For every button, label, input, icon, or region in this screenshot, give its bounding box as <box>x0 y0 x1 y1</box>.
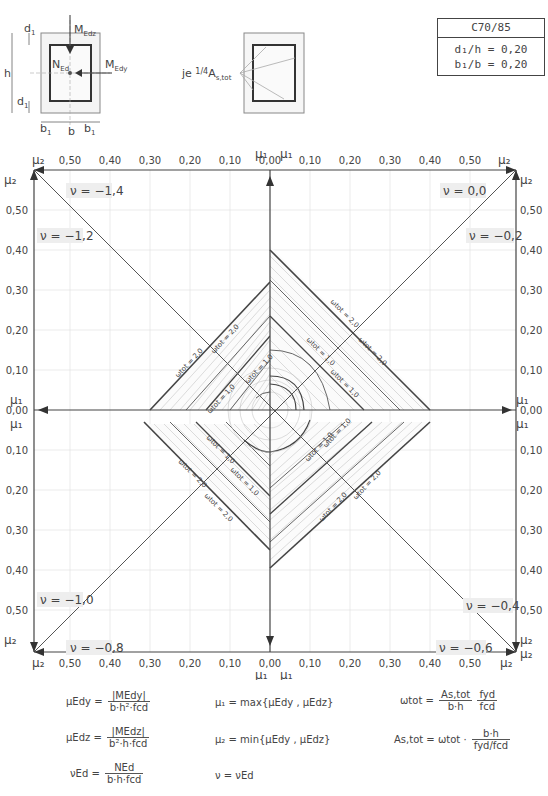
svg-text:0,30: 0,30 <box>520 525 542 536</box>
svg-text:μ₂: μ₂ <box>500 656 513 670</box>
svg-text:μ₁: μ₁ <box>516 393 529 407</box>
nu-label-minus-0-8: ν = −0,8 <box>70 641 124 655</box>
svg-text:0,30: 0,30 <box>139 155 161 166</box>
svg-text:μ₁: μ₁ <box>280 147 293 161</box>
formula-nu-ed: νEd = NEdb·h·fcd <box>70 762 143 785</box>
nu-diagonals <box>34 170 516 652</box>
as-tot-quarter-label: je 1/4As,tot <box>181 67 232 82</box>
nu-label-minus-1-2: ν = −1,2 <box>40 229 94 243</box>
svg-text:μ₁: μ₁ <box>255 668 268 680</box>
svg-text:0,20: 0,20 <box>520 485 542 496</box>
svg-text:0,30: 0,30 <box>6 525 28 536</box>
svg-text:0,50: 0,50 <box>6 605 28 616</box>
svg-text:μ₂: μ₂ <box>520 173 533 187</box>
svg-text:0,50: 0,50 <box>6 205 28 216</box>
svg-text:0,10: 0,10 <box>219 658 241 669</box>
bottom-tick-labels: 0,50 0,40 0,30 0,20 0,10 0,00 0,10 0,20 … <box>59 658 481 669</box>
svg-text:0,10: 0,10 <box>6 365 28 376</box>
formula-nu-def: ν = νEd <box>215 770 254 781</box>
svg-text:μ₂: μ₂ <box>4 633 17 647</box>
nu-label-minus-0-2: ν = −0,2 <box>469 229 523 243</box>
svg-text:μ₂: μ₂ <box>4 173 17 187</box>
svg-text:0,40: 0,40 <box>419 658 441 669</box>
interaction-chart: 0,50 0,40 0,30 0,20 0,10 0,00 0,10 0,20 … <box>0 140 548 680</box>
b1-right-label: b1 <box>84 122 95 135</box>
svg-text:μ₁: μ₁ <box>10 393 23 407</box>
d1-bottom-label: d1 <box>17 95 28 110</box>
left-tick-labels: 0,50 0,40 0,30 0,20 0,10 0,00 0,10 0,20 … <box>6 205 28 616</box>
svg-text:0,20: 0,20 <box>179 155 201 166</box>
svg-text:0,50: 0,50 <box>520 205 542 216</box>
concrete-class: C70/85 <box>438 19 544 38</box>
nu-label-minus-0-4: ν = −0,4 <box>466 599 520 613</box>
formula-mu1-def: μ₁ = max{μEdy , μEdz} <box>215 697 333 708</box>
svg-text:0,50: 0,50 <box>459 155 481 166</box>
d1-top-label: d1 <box>24 22 35 37</box>
nu-label-minus-0-6: ν = −0,6 <box>439 641 493 655</box>
svg-text:0,20: 0,20 <box>520 325 542 336</box>
svg-text:0,10: 0,10 <box>520 365 542 376</box>
h-label: h <box>4 67 11 80</box>
svg-text:0,20: 0,20 <box>6 325 28 336</box>
section-sketch: d1 h d1 MEdz MEdy NEd b1 b b1 <box>0 0 180 135</box>
svg-text:0,40: 0,40 <box>520 565 542 576</box>
svg-text:0,40: 0,40 <box>520 245 542 256</box>
material-info-box: C70/85 d₁/h = 0,20 b₁/b = 0,20 <box>437 18 545 76</box>
nu-label-minus-1-0: ν = −1,0 <box>40 593 94 607</box>
formula-as-tot: As,tot = ωtot · b·hfyd/fcd <box>394 728 510 751</box>
svg-text:0,50: 0,50 <box>59 155 81 166</box>
svg-text:μ₁: μ₁ <box>280 668 293 680</box>
svg-text:0,10: 0,10 <box>6 445 28 456</box>
svg-text:μ₂: μ₂ <box>32 656 45 670</box>
svg-text:μ₂: μ₂ <box>520 647 533 661</box>
svg-text:0,30: 0,30 <box>6 285 28 296</box>
svg-text:0,50: 0,50 <box>459 658 481 669</box>
svg-text:0,30: 0,30 <box>520 285 542 296</box>
nu-label-minus-1-4: ν = −1,4 <box>70 184 124 198</box>
svg-text:0,40: 0,40 <box>6 245 28 256</box>
svg-text:0,40: 0,40 <box>99 155 121 166</box>
svg-text:μ₁: μ₁ <box>516 417 529 431</box>
svg-text:μ₁: μ₁ <box>255 147 268 161</box>
svg-text:0,40: 0,40 <box>419 155 441 166</box>
svg-text:0,50: 0,50 <box>520 605 542 616</box>
b1-b-ratio: b₁/b = 0,20 <box>438 57 544 72</box>
right-tick-labels: 0,50 0,40 0,30 0,20 0,10 0,00 0,10 0,20 … <box>520 205 542 616</box>
d1-h-ratio: d₁/h = 0,20 <box>438 42 544 57</box>
svg-text:0,10: 0,10 <box>299 155 321 166</box>
svg-text:0,30: 0,30 <box>379 658 401 669</box>
formula-omega-tot: ωtot = As,totb·h fydfcd <box>400 689 497 712</box>
formula-mu2-def: μ₂ = min{μEdy , μEdz} <box>215 734 330 745</box>
svg-text:0,20: 0,20 <box>6 485 28 496</box>
svg-text:μ₂: μ₂ <box>498 153 511 167</box>
svg-text:0,10: 0,10 <box>299 658 321 669</box>
nu-label-0-0: ν = 0,0 <box>443 184 486 198</box>
svg-text:0,10: 0,10 <box>520 445 542 456</box>
svg-text:0,20: 0,20 <box>179 658 201 669</box>
svg-text:0,10: 0,10 <box>219 155 241 166</box>
reinforcement-sketch: je 1/4As,tot <box>180 0 380 130</box>
svg-text:0,30: 0,30 <box>139 658 161 669</box>
svg-text:0,30: 0,30 <box>379 155 401 166</box>
svg-text:μ₂: μ₂ <box>32 153 45 167</box>
svg-text:μ₁: μ₁ <box>10 417 23 431</box>
svg-text:0,40: 0,40 <box>99 658 121 669</box>
formula-mu-edz: μEdz = |MEdz|b²·h·fcd <box>66 726 149 749</box>
medy-label: MEdy <box>105 58 128 73</box>
svg-text:0,20: 0,20 <box>339 155 361 166</box>
medz-label: MEdz <box>74 23 96 38</box>
svg-text:0,20: 0,20 <box>339 658 361 669</box>
svg-text:0,50: 0,50 <box>59 658 81 669</box>
svg-text:0,40: 0,40 <box>6 565 28 576</box>
b1-left-label: b1 <box>40 122 51 135</box>
svg-text:μ₂: μ₂ <box>520 633 533 647</box>
formula-mu-edy: μEdy = |MEdy|b·h²·fcd <box>66 690 150 713</box>
omega-contours <box>144 246 434 570</box>
b-label: b <box>68 125 75 135</box>
top-tick-labels: 0,50 0,40 0,30 0,20 0,10 0,00 0,10 0,20 … <box>59 155 481 166</box>
